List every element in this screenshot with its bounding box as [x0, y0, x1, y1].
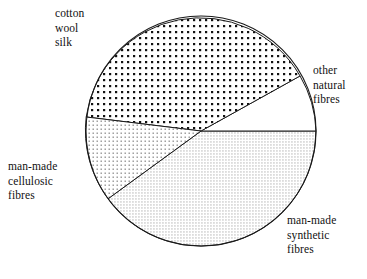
pie-label-man-made-cellulosic-fibres: man-made cellulosic fibres	[8, 159, 57, 203]
pie-label-line: silk	[55, 35, 84, 50]
pie-label-man-made-synthetic-fibres: man-made synthetic fibres	[287, 213, 336, 257]
pie-label-line: synthetic	[287, 228, 336, 243]
pie-label-line: cellulosic	[8, 174, 57, 189]
pie-label-line: other	[313, 63, 346, 78]
pie-label-line: fibres	[313, 92, 346, 107]
pie-label-line: fibres	[287, 242, 336, 257]
pie-label-line: natural	[313, 78, 346, 93]
pie-label-other-natural-fibres: other natural fibres	[313, 63, 346, 107]
pie-label-line: fibres	[8, 188, 57, 203]
pie-label-line: man-made	[287, 213, 336, 228]
pie-chart-figure: cotton wool silk other natural fibres ma…	[0, 0, 367, 279]
pie-label-line: man-made	[8, 159, 57, 174]
pie-label-line: wool	[55, 21, 84, 36]
pie-label-line: cotton	[55, 6, 84, 21]
pie-label-cotton-wool-silk: cotton wool silk	[55, 6, 84, 50]
